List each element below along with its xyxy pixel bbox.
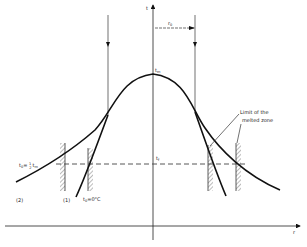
left-vertical-arrow (106, 15, 110, 115)
t0-zero-label: t0=0°C (83, 196, 101, 203)
curve-1-label: (1) (63, 197, 70, 203)
t0-half-label: t0= 12tm (19, 162, 38, 170)
temperature-distribution-diagram: r t r0 tm (0, 0, 307, 247)
peak-label: tm (155, 67, 161, 74)
y-axis-label: t (146, 5, 148, 11)
curve-2-label: (2) (16, 197, 23, 203)
x-axis: r (5, 226, 300, 235)
annotation-line-2: melted zone (242, 117, 273, 123)
melted-zone-annotation: Limit of the melted zone (210, 109, 273, 146)
x-axis-label: r (293, 229, 296, 235)
r0-label: r0 (168, 20, 172, 27)
right-vertical-arrow (193, 15, 197, 112)
y-axis: t (146, 5, 153, 240)
annotation-line-1: Limit of the (240, 109, 269, 115)
r0-arrow: r0 (155, 20, 195, 30)
melting-point-label: tf (156, 155, 160, 162)
